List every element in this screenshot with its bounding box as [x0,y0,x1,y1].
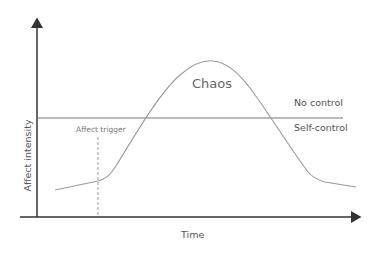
y-axis-label: Affect intensity [22,111,33,201]
self-control-label: Self-control [294,122,348,133]
x-axis-label: Time [181,229,204,240]
no-control-label: No control [294,97,343,108]
chaos-label: Chaos [192,76,232,91]
affect-trigger-label: Affect trigger [76,125,126,134]
